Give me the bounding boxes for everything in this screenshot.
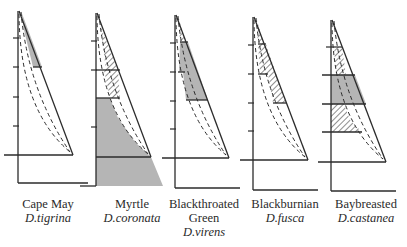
tree-cape-may [4,11,88,183]
tree-blackthroated-green [162,15,240,188]
common-name: Myrtle [92,197,172,211]
feeding-zone-hatched [104,70,120,98]
scientific-name: D.tigrina [8,211,88,225]
common-name: Baybreasted [326,197,406,211]
species-label-blackthroated-green: Blackthroated Green D.virens [164,197,244,239]
tree-baybreasted [318,20,396,191]
species-label-myrtle: Myrtle D.coronata [92,197,172,225]
common-name: Cape May [8,197,88,211]
feeding-zone-shaded [21,11,42,67]
common-name: Blackthroated [164,197,244,211]
feeding-zone-shaded [96,98,163,186]
scientific-name: D.coronata [92,211,172,225]
common-name-line2: Green [164,211,244,225]
scientific-name: D.virens [164,225,244,239]
scientific-name: D.fusca [245,211,325,225]
common-name: Blackburnian [245,197,325,211]
tree-myrtle [80,13,163,186]
tree-blackburnian [240,17,318,190]
species-label-cape-may: Cape May D.tigrina [8,197,88,225]
scientific-name: D.castanea [326,211,406,225]
species-label-baybreasted: Baybreasted D.castanea [326,197,406,225]
species-label-blackburnian: Blackburnian D.fusca [245,197,325,225]
